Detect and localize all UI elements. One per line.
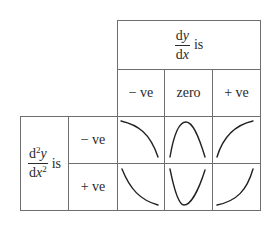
curve-increasing-concave-up-icon [213, 164, 260, 210]
curve-decreasing-concave-up-icon [118, 164, 164, 210]
numerator-d: d [29, 146, 36, 161]
curve-decreasing-concave-down-icon [118, 117, 164, 163]
denominator-var: x [183, 47, 189, 62]
denominator-exponent: 2 [42, 164, 47, 174]
numerator-d: d [176, 28, 183, 43]
numerator-var: y [183, 28, 189, 43]
row-label-negative: − ve [69, 117, 117, 163]
curve-increasing-concave-down-icon [213, 117, 260, 163]
column-label-zero: zero [165, 70, 212, 116]
column-label-negative: − ve [118, 70, 164, 116]
numerator-var: y [40, 146, 46, 161]
denominator-d: d [176, 47, 183, 62]
curve-maximum-arch-icon [165, 117, 212, 163]
row-label-positive: + ve [69, 164, 117, 210]
grid-line [260, 20, 261, 211]
row-header-d2y-dx2: d2y dx2 is [21, 117, 68, 210]
row-header-suffix: is [52, 156, 61, 172]
grid-line [20, 210, 261, 211]
first-derivative-fraction: dy dx [175, 29, 190, 62]
column-header-dy-dx: dy dx is [118, 21, 260, 69]
second-derivative-fraction: d2y dx2 [28, 147, 48, 180]
column-label-positive: + ve [213, 70, 260, 116]
denominator-d: d [29, 165, 36, 180]
curve-minimum-valley-icon [165, 164, 212, 210]
column-header-suffix: is [194, 37, 203, 53]
